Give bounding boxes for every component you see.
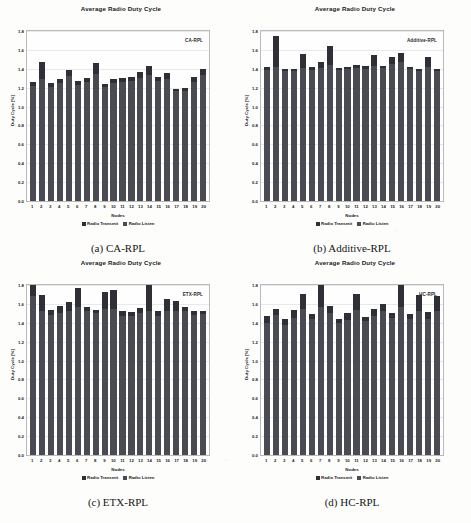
bar-segment-radio-listen: [353, 310, 359, 455]
y-axis-tick: 0.8: [18, 123, 24, 128]
bar-segment-radio-listen: [173, 311, 179, 455]
bar-group: [27, 31, 209, 201]
x-axis-tick: 3: [47, 204, 53, 212]
x-axis-tick: 20: [435, 204, 441, 212]
y-axis-tick: 0.6: [252, 142, 258, 147]
legend-label: Radio Listen: [129, 475, 155, 480]
bar: [57, 306, 63, 455]
x-axis-tick: 13: [371, 204, 377, 212]
bar-segment-radio-listen: [128, 316, 134, 455]
bar-segment-radio-transmit: [137, 72, 143, 79]
x-axis-tick: 12: [362, 458, 368, 466]
bar: [389, 313, 395, 455]
bar-group: [261, 285, 443, 455]
chart-title: Average Radio Duty Cycle: [8, 4, 234, 14]
y-axis-tick: 0.0: [18, 199, 24, 204]
bar: [110, 79, 116, 201]
bar-segment-radio-listen: [66, 311, 72, 455]
bar-segment-radio-listen: [380, 311, 386, 455]
legend-item: Radio Transmit: [82, 221, 119, 226]
bar-segment-radio-listen: [282, 71, 288, 201]
bar: [39, 62, 45, 201]
bar-segment-radio-transmit: [39, 295, 45, 310]
bar-segment-radio-transmit: [389, 57, 395, 65]
bar: [309, 67, 315, 201]
bar: [336, 68, 342, 201]
chart-panel-c: Average Radio Duty Cycle Duty Cycle [%] …: [2, 258, 234, 505]
bar: [371, 55, 377, 201]
bar: [407, 314, 413, 455]
legend-label: Radio Listen: [363, 475, 389, 480]
x-axis-tick: 17: [174, 458, 180, 466]
bar-segment-radio-listen: [84, 82, 90, 201]
x-axis-tick: 4: [290, 458, 296, 466]
bar: [318, 284, 324, 455]
y-axis-tick: 1.4: [252, 320, 258, 325]
bar: [344, 67, 350, 201]
chart-legend: Radio TransmitRadio Listen: [260, 475, 444, 480]
x-axis-tick: 3: [47, 458, 53, 466]
bar-segment-radio-listen: [155, 316, 161, 455]
bar-segment-radio-listen: [327, 313, 333, 455]
y-axis-ticks: 0.00.20.40.60.81.01.21.41.61.8: [10, 284, 24, 456]
x-axis-tick: 2: [272, 204, 278, 212]
x-axis-tick: 5: [299, 204, 305, 212]
x-axis-tick: 5: [299, 458, 305, 466]
subfigure-caption-b: (b) Additive-RPL: [236, 242, 468, 254]
bar-segment-radio-listen: [102, 309, 108, 455]
bar: [93, 310, 99, 455]
figure-average-radio-duty-cycle: Average Radio Duty Cycle Duty Cycle [%] …: [0, 0, 471, 523]
bar-segment-radio-listen: [273, 315, 279, 455]
bar-segment-radio-listen: [336, 323, 342, 455]
bar-segment-radio-transmit: [273, 309, 279, 316]
bar-segment-radio-listen: [398, 307, 404, 455]
bar-segment-radio-listen: [300, 309, 306, 455]
y-axis-tick: 1.6: [252, 301, 258, 306]
bar-segment-radio-listen: [75, 307, 81, 455]
legend-swatch-icon: [123, 222, 127, 226]
bar-segment-radio-listen: [146, 311, 152, 456]
bar-segment-radio-listen: [128, 81, 134, 201]
y-axis-tick: 1.6: [18, 301, 24, 306]
x-axis-tick: 20: [201, 204, 207, 212]
bar-segment-radio-listen: [57, 83, 63, 201]
bar: [119, 311, 125, 455]
bar-segment-radio-transmit: [344, 313, 350, 320]
x-axis-tick: 10: [344, 458, 350, 466]
bar: [300, 294, 306, 456]
bar: [416, 295, 422, 455]
x-axis-tick: 5: [65, 204, 71, 212]
bar: [371, 309, 377, 455]
bar-segment-radio-transmit: [264, 316, 270, 323]
bar-segment-radio-transmit: [327, 46, 333, 65]
bar: [318, 62, 324, 201]
chart-legend: Radio TransmitRadio Listen: [26, 475, 210, 480]
x-axis-tick: 9: [101, 204, 107, 212]
y-axis-tick: 0.8: [18, 377, 24, 382]
bar-segment-radio-listen: [371, 316, 377, 455]
bar: [380, 66, 386, 201]
x-axis-tick: 15: [389, 204, 395, 212]
x-axis-tick: 17: [174, 204, 180, 212]
subfigure-caption-c: (c) ETX-RPL: [2, 496, 234, 508]
x-axis-tick: 15: [389, 458, 395, 466]
bar: [110, 290, 116, 455]
legend-label: Radio Transmit: [87, 475, 118, 480]
bar: [282, 69, 288, 201]
bar-segment-radio-transmit: [434, 296, 440, 310]
x-axis-tick: 2: [38, 204, 44, 212]
bar: [66, 302, 72, 455]
bar: [282, 319, 288, 455]
bar-segment-radio-listen: [416, 311, 422, 455]
y-axis-tick: 0.2: [18, 180, 24, 185]
bar-segment-radio-transmit: [353, 294, 359, 310]
legend-item: Radio Transmit: [316, 475, 353, 480]
x-axis-ticks: 1234567891011121314151617181920: [260, 204, 444, 212]
bar-segment-radio-listen: [389, 318, 395, 455]
bar: [128, 77, 134, 201]
y-axis-tick: 0.6: [252, 396, 258, 401]
bar: [173, 301, 179, 455]
bar-segment-radio-transmit: [102, 292, 108, 309]
x-axis-tick: 1: [263, 458, 269, 466]
bar-segment-radio-listen: [119, 316, 125, 455]
